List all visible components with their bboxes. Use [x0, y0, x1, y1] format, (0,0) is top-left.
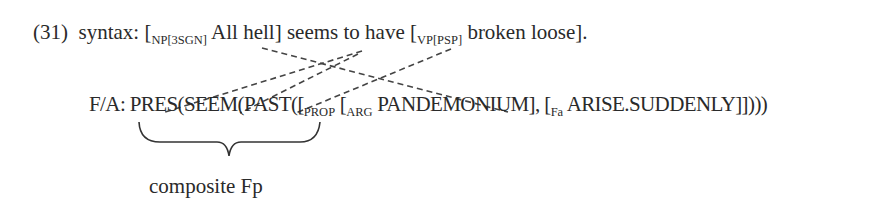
syntax-label: syntax:	[79, 20, 140, 44]
fa-open-prop: [	[297, 92, 303, 116]
fa-subscript: Fa	[551, 105, 564, 119]
fa-open-fa: [	[544, 92, 550, 116]
middle-text: seems to have	[287, 20, 405, 44]
fa-text: ARISE.SUDDENLY]])))	[567, 92, 768, 116]
example-number: (31)	[33, 20, 68, 44]
fa-seem: SEEM(	[184, 92, 244, 116]
fa-past: PAST(	[244, 92, 297, 116]
brace-label: composite Fp	[149, 174, 263, 199]
underbrace	[139, 122, 320, 156]
vp-subscript: VP[PSP]	[417, 33, 462, 47]
vp-bracket: [	[410, 20, 417, 44]
vp-text: broken loose].	[467, 20, 587, 44]
np-text: All hell]	[211, 20, 282, 44]
fa-pres: PRES(	[130, 92, 184, 116]
prop-subscript: PROP	[304, 105, 335, 119]
fa-line: F/A: PRES(SEEM(PAST([PROP [ARG PANDEMONI…	[89, 94, 767, 115]
arg-text: PANDEMONIUM],	[377, 92, 539, 116]
fa-label: F/A:	[89, 92, 125, 116]
syntax-line: (31) syntax: [NP[3SGN] All hell] seems t…	[33, 22, 588, 43]
arg-subscript: ARG	[346, 105, 372, 119]
np-subscript: NP[3SGN]	[151, 33, 207, 47]
